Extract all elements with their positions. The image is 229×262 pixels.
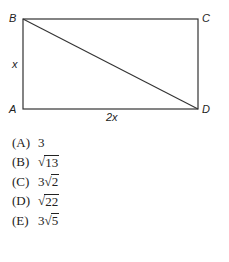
rectangle-figure: B C A D x 2x	[0, 0, 229, 130]
vertex-label-c: C	[202, 13, 210, 24]
radicand: 13	[44, 155, 59, 170]
vertex-label-d: D	[202, 104, 210, 115]
choice-d[interactable]: (D) √22	[12, 192, 59, 212]
choice-value: √13	[38, 154, 59, 170]
side-label-2x: 2x	[106, 112, 118, 123]
choice-a[interactable]: (A) 3	[12, 133, 59, 153]
choice-value: 3	[38, 135, 45, 151]
vertex-label-b: B	[9, 13, 16, 24]
choice-letter: (E)	[12, 213, 38, 229]
choice-c[interactable]: (C) 3√2	[12, 172, 59, 192]
choice-letter: (B)	[12, 154, 38, 170]
choice-value: √22	[38, 193, 59, 209]
radicand: 5	[51, 213, 60, 228]
choice-e[interactable]: (E) 3√5	[12, 211, 59, 231]
choice-value: 3√2	[38, 174, 59, 190]
choice-letter: (C)	[12, 174, 38, 190]
diagonal-bd	[23, 19, 198, 109]
choice-letter: (A)	[12, 135, 38, 151]
choice-value: 3√5	[38, 213, 59, 229]
answer-choices: (A) 3 (B) √13 (C) 3√2 (D) √22 (E) 3√5	[12, 133, 59, 231]
side-label-x: x	[12, 59, 18, 70]
radicand: 2	[51, 174, 60, 189]
vertex-label-a: A	[9, 104, 16, 115]
choice-b[interactable]: (B) √13	[12, 153, 59, 173]
radicand: 22	[44, 194, 59, 209]
choice-letter: (D)	[12, 193, 38, 209]
